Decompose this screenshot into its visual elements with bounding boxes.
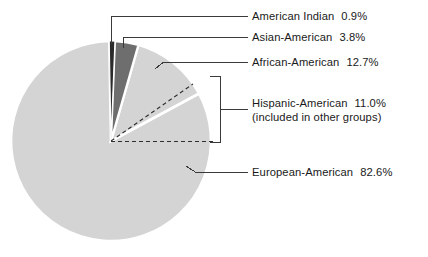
pie-chart-figure: American Indian0.9% Asian-American3.8% A… xyxy=(0,0,428,257)
label-note-hispanic-american: (included in other groups) xyxy=(252,111,386,125)
label-percent-hispanic-american: 11.0% xyxy=(355,97,386,109)
label-text-hispanic-american: Hispanic-American xyxy=(252,97,348,109)
leader-line-american-indian xyxy=(112,17,249,45)
label-percent-american-indian: 0.9% xyxy=(341,10,367,22)
label-percent-european-american: 82.6% xyxy=(360,166,392,178)
callout-label-african-american: African-American12.7% xyxy=(252,56,379,70)
label-text-european-american: European-American xyxy=(252,166,353,178)
callout-label-american-indian: American Indian0.9% xyxy=(252,10,367,24)
label-text-american-indian: American Indian xyxy=(252,10,334,22)
label-text-african-american: African-American xyxy=(252,56,339,68)
callout-label-european-american: European-American82.6% xyxy=(252,166,392,180)
label-percent-asian-american: 3.8% xyxy=(339,31,365,43)
hispanic-american-bracket xyxy=(210,77,248,143)
label-text-asian-american: Asian-American xyxy=(252,31,332,43)
label-percent-african-american: 12.7% xyxy=(346,56,378,68)
callout-label-hispanic-american: Hispanic-American11.0% (included in othe… xyxy=(252,97,386,124)
callout-label-asian-american: Asian-American3.8% xyxy=(252,31,365,45)
